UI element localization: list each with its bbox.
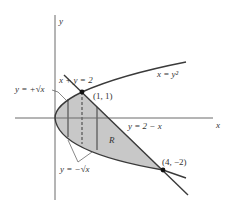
label-upper-branch: y = +√x bbox=[14, 84, 45, 94]
x-axis-label: x bbox=[215, 120, 220, 130]
point-1-1 bbox=[80, 90, 85, 95]
leader-upper bbox=[52, 90, 68, 102]
label-point-4-neg2: (4, −2) bbox=[162, 157, 187, 167]
label-region-r: R bbox=[108, 135, 115, 145]
label-x-plus-y-2: x + y = 2 bbox=[58, 75, 93, 85]
point-4-neg2 bbox=[161, 168, 166, 173]
y-axis-label: y bbox=[58, 16, 63, 26]
label-point-1-1: (1, 1) bbox=[93, 91, 113, 101]
label-y-2-minus-x: y = 2 − x bbox=[127, 121, 162, 131]
label-parabola: x = y² bbox=[156, 69, 179, 79]
region-diagram: y x x + y = 2 y = +√x (1, 1) x = y² R y … bbox=[0, 0, 228, 209]
label-lower-branch: y = −√x bbox=[59, 164, 90, 174]
